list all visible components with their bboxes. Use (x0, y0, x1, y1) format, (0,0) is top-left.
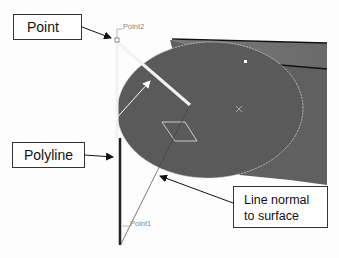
callout-point-text: Point (27, 19, 59, 35)
point1-label: Point1 (130, 219, 151, 228)
callout-polyline: Polyline (12, 142, 85, 168)
callout-normal-line1: Line normal (244, 192, 327, 208)
polyline-leader-1 (85, 155, 113, 157)
point2-marker (115, 38, 119, 42)
normal-leader (160, 176, 233, 203)
callout-polyline-text: Polyline (24, 147, 73, 163)
point2-label: Point2 (123, 22, 144, 31)
callout-normal-line2: to surface (244, 208, 327, 224)
point-leader (82, 27, 111, 38)
callout-line-normal: Line normal to surface (233, 186, 328, 228)
callout-point: Point (13, 14, 82, 40)
diagram-canvas: Point Polyline Line normal to surface Po… (0, 0, 339, 258)
vertex-marker (244, 60, 247, 63)
